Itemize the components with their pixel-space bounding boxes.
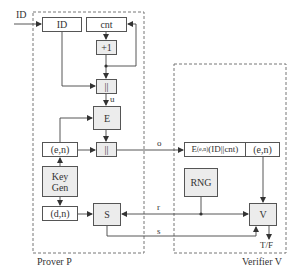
keygen-line2: Gen [52,182,69,193]
output-label: T/F [260,240,273,250]
edge-label-r: r [157,202,160,212]
increment-box: +1 [96,40,117,55]
encrypt-box: E [93,106,121,130]
stored-sub: (e,n) [197,144,208,155]
input-id-label: ID [16,9,27,20]
private-key-box: (d,n) [42,206,78,221]
keygen-line1: Key [52,171,69,182]
prover-title: Prover P [37,256,72,267]
verifier-title: Verifier V [242,256,282,267]
public-key-box: (e,n) [42,142,78,157]
id-box: ID [42,17,82,32]
concat-box-2: || [96,142,117,157]
edge-label-u: u [110,94,115,104]
cnt-box: cnt [86,17,127,32]
stored-rest: (ID||cnt) [208,144,238,155]
concat-box-1: || [96,79,117,94]
stored-key-box: (e,n) [245,142,280,157]
keygen-box: Key Gen [42,166,78,197]
edge-label-s: s [157,226,161,236]
stored-ciphertext-box: E(e,n)(ID||cnt) [184,142,246,157]
verify-box: V [249,203,277,226]
rng-box: RNG [184,168,218,197]
edge-label-o: o [157,138,162,148]
diagram-connectors [0,0,300,273]
sign-box: S [93,203,121,226]
